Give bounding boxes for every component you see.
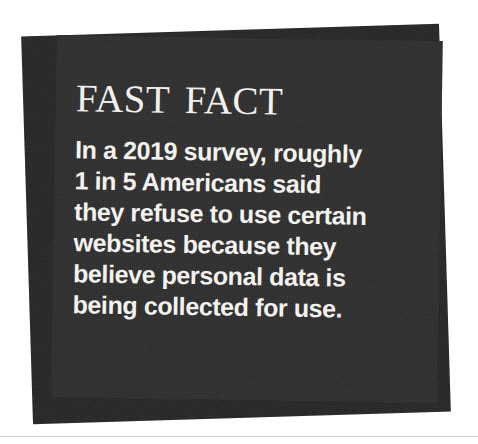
fast-fact-title: Fast Fact (76, 65, 431, 126)
card-content: Fast Fact In a 2019 survey, roughly 1 in… (51, 35, 443, 403)
page-rule-divider (0, 436, 478, 437)
fast-fact-page: Fast Fact In a 2019 survey, roughly 1 in… (0, 0, 478, 444)
body-line: being collected for use. (72, 289, 426, 326)
callout-inner: Fast Fact In a 2019 survey, roughly 1 in… (72, 65, 430, 326)
fast-fact-body: In a 2019 survey, roughly 1 in 5 America… (72, 134, 429, 326)
card-stack: Fast Fact In a 2019 survey, roughly 1 in… (0, 0, 478, 444)
